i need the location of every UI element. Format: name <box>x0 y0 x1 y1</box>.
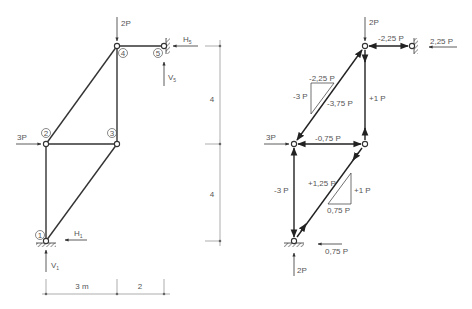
node-label-4: 4 <box>121 49 126 58</box>
reaction-label-225p: 2,25 P <box>430 37 453 46</box>
force-label-m13: +1,25 P <box>308 179 336 188</box>
force-label-m24: -3,75 P <box>327 99 353 108</box>
node-label-5: 5 <box>156 49 161 58</box>
node-1 <box>43 238 48 243</box>
horizontal-dimension <box>42 279 170 295</box>
node-3 <box>114 141 119 146</box>
dimension-upper: 4 <box>210 95 215 104</box>
truss-diagram-canvas: 1 2 3 4 5 2P 3P H5 V5 H1 V1 4 <box>0 0 472 309</box>
node-5 <box>161 43 166 48</box>
force-label-m34: +1 P <box>369 94 386 103</box>
node-4 <box>114 43 119 48</box>
force-label-m23: -0,75 P <box>315 134 341 143</box>
left-truss: 1 2 3 4 5 2P 3P H5 V5 H1 V1 4 <box>16 17 221 295</box>
force-label-m45: -2,25 P <box>378 34 404 43</box>
node-label-1: 1 <box>38 231 43 240</box>
load-label-2p: 2P <box>121 19 131 28</box>
reaction-label-2p-bottom: 2P <box>297 266 307 275</box>
vertical-dimension <box>205 40 221 246</box>
force-label-m12: -3 P <box>274 186 289 195</box>
member-1-3 <box>46 144 117 241</box>
reaction-label-v5: V5 <box>168 73 176 83</box>
right-truss: 2P 3P 2,25 P 0,75 P 2P -2,25 P +1 P -3,7… <box>264 17 457 276</box>
reaction-label-v1: V1 <box>51 261 59 271</box>
dimension-lower: 4 <box>210 190 215 199</box>
dimension-2: 2 <box>138 282 143 291</box>
reaction-label-h5: H5 <box>183 35 192 45</box>
member-2-4 <box>46 46 117 144</box>
reaction-label-075p: 0,75 P <box>325 247 348 256</box>
reaction-label-h1: H1 <box>74 229 83 239</box>
node-label-3: 3 <box>110 129 115 138</box>
left-members <box>46 46 164 241</box>
member-1-3-force <box>297 148 362 237</box>
lower-triangle-horizontal: 0,75 P <box>327 206 350 215</box>
dimension-3m: 3 m <box>75 282 89 291</box>
lower-triangle-vertical: +1 P <box>354 186 371 195</box>
node-label-2: 2 <box>44 129 49 138</box>
load-label-3p: 3P <box>17 133 27 142</box>
node-2 <box>43 141 48 146</box>
load-label-2p-right: 2P <box>369 18 379 27</box>
load-label-3p-right: 3P <box>266 133 276 142</box>
upper-triangle-vertical: -3 P <box>293 92 308 101</box>
upper-triangle-horizontal: -2,25 P <box>309 74 335 83</box>
